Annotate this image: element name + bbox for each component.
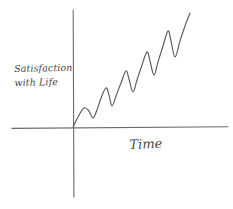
y-axis-label-line-2: with Life (14, 74, 73, 89)
satisfaction-curve (73, 13, 190, 127)
chart-canvas (0, 0, 233, 209)
x-axis-line (12, 127, 228, 129)
y-axis-label-line-1: Satisfaction (14, 61, 73, 76)
y-axis-label: Satisfaction with Life (14, 61, 73, 89)
chart-figure: Satisfaction with Life Time (0, 0, 233, 209)
x-axis-label: Time (129, 136, 163, 152)
y-axis-line (73, 10, 74, 197)
